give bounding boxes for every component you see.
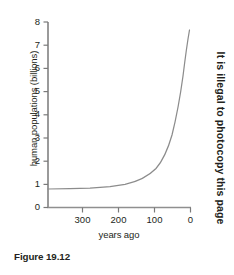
margin-notice-text: It is illegal to photocopy this page [215, 51, 227, 224]
x-axis-title: years ago [48, 229, 190, 240]
y-tick-label-8: 8 [20, 16, 40, 27]
x-tick-label-100: 100 [138, 214, 172, 225]
margin-notice: It is illegal to photocopy this page [210, 0, 232, 275]
y-tick-label-0: 0 [20, 201, 40, 212]
figure-caption: Figure 19.12 [14, 251, 70, 262]
chart-plot-area: 8 7 6 5 4 3 2 1 0 300 200 100 0 human po… [0, 0, 200, 240]
y-axis-title: human populations (billions) [28, 29, 39, 189]
x-tick-label-0: 0 [174, 214, 208, 225]
population-curve [48, 30, 190, 189]
x-tick-marks [83, 208, 191, 213]
x-tick-label-200: 200 [102, 214, 136, 225]
figure-19-12: 8 7 6 5 4 3 2 1 0 300 200 100 0 human po… [0, 0, 234, 275]
x-tick-label-300: 300 [66, 214, 100, 225]
